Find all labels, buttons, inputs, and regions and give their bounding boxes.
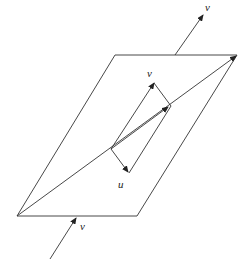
diagram-canvas: v v u v: [0, 0, 245, 267]
inner-rect-top-edge: [154, 83, 171, 106]
diagonal-mid-arrow: [111, 107, 168, 149]
label-u-inner: u: [118, 178, 124, 190]
label-v-inner: v: [147, 67, 152, 79]
label-v-bottom: v: [80, 220, 85, 232]
label-v-top: v: [205, 1, 210, 13]
inner-rect-right-edge: [129, 106, 171, 173]
diagonal-vector: [17, 56, 236, 216]
inner-u-vector: [111, 149, 128, 172]
bottom-v-vector: [50, 218, 76, 259]
top-v-vector: [175, 15, 203, 55]
inner-v-vector: [111, 83, 154, 149]
